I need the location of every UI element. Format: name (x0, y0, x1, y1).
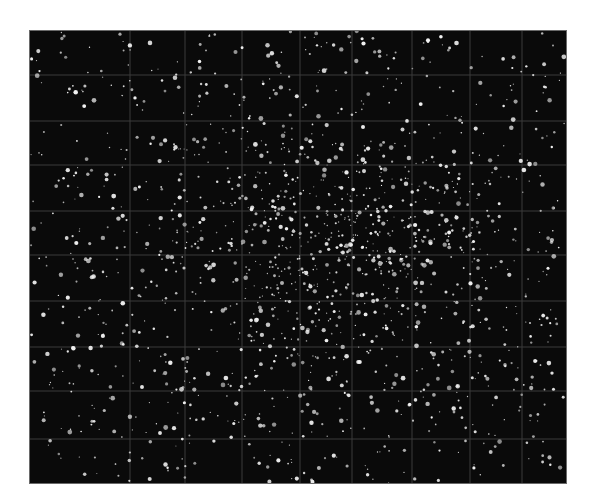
star (531, 375, 534, 378)
star (335, 90, 337, 92)
star (83, 473, 87, 477)
star (545, 250, 547, 252)
star (280, 190, 281, 191)
star (239, 332, 240, 333)
star (281, 215, 282, 216)
star (278, 199, 279, 200)
star (407, 156, 411, 160)
star (410, 203, 413, 206)
star (227, 167, 229, 169)
star (404, 181, 409, 186)
star (305, 223, 309, 227)
star (212, 439, 215, 442)
star (466, 203, 469, 206)
star (217, 415, 219, 417)
star (210, 412, 211, 413)
star (242, 127, 244, 129)
star (79, 231, 80, 232)
star (78, 316, 80, 318)
star (160, 356, 162, 358)
star (202, 417, 205, 420)
star (540, 175, 541, 176)
star (457, 177, 460, 180)
star (379, 267, 380, 268)
star (486, 210, 488, 212)
star (453, 312, 457, 316)
star (338, 235, 340, 237)
star (176, 231, 178, 233)
star (375, 298, 379, 302)
star (33, 280, 37, 284)
star (230, 115, 231, 116)
star (248, 207, 249, 208)
star (380, 273, 382, 275)
star (506, 99, 507, 100)
star (426, 75, 429, 78)
star (392, 382, 396, 386)
star (153, 369, 156, 372)
star (87, 72, 88, 73)
star (498, 230, 499, 231)
star (265, 216, 266, 217)
star (297, 338, 299, 340)
star (299, 192, 302, 195)
star (331, 232, 333, 234)
star (91, 405, 92, 406)
star (90, 424, 92, 426)
star (266, 286, 268, 288)
star (363, 428, 365, 430)
star (356, 304, 358, 306)
star (397, 298, 398, 299)
star (383, 284, 384, 285)
star (245, 414, 246, 415)
star (489, 450, 493, 454)
star (103, 185, 104, 186)
star (377, 233, 379, 235)
star (357, 267, 361, 271)
star (459, 247, 461, 249)
star (532, 74, 534, 76)
star (325, 242, 329, 246)
star (450, 256, 452, 258)
star (128, 459, 131, 462)
star (210, 124, 211, 125)
star (301, 267, 304, 270)
star (333, 310, 336, 313)
star (385, 304, 389, 308)
star (480, 322, 481, 323)
star (49, 384, 50, 385)
star (471, 376, 474, 379)
star (212, 250, 214, 252)
star (111, 310, 113, 312)
star (172, 218, 174, 220)
star (420, 290, 423, 293)
star (175, 389, 177, 391)
star (316, 206, 320, 210)
star (161, 258, 163, 260)
star (296, 318, 298, 320)
star (220, 200, 221, 201)
star (131, 314, 133, 316)
star (218, 142, 219, 143)
star (497, 155, 499, 157)
star (174, 309, 176, 311)
star (429, 260, 433, 264)
star (48, 439, 52, 443)
star (307, 241, 308, 242)
star (233, 261, 236, 264)
star (467, 350, 471, 354)
star (44, 415, 45, 416)
star (379, 166, 381, 168)
star (186, 201, 188, 203)
star (269, 218, 272, 221)
star (527, 162, 532, 167)
star (42, 418, 46, 422)
star (381, 221, 385, 225)
star (333, 281, 335, 283)
star (58, 180, 60, 182)
star (98, 196, 100, 198)
star (77, 267, 79, 269)
star (129, 49, 130, 50)
star (490, 267, 492, 269)
star (423, 397, 424, 398)
